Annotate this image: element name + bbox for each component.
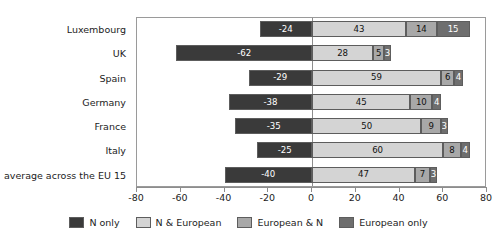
legend-swatch-icon (339, 217, 354, 228)
bar-segment: -40 (225, 167, 313, 183)
x-tick-label: -20 (259, 192, 275, 203)
bar-segment: 3 (384, 45, 391, 61)
bar-segment: 9 (421, 118, 441, 134)
bar-value-label: 3 (431, 170, 436, 179)
bar-row: -24431415 (137, 18, 485, 42)
bar-value-label: 10 (416, 98, 427, 107)
bar-row: -295964 (137, 67, 485, 91)
bar-segment: -29 (249, 70, 312, 86)
category-label: average across the EU 15 (4, 164, 126, 188)
legend-swatch-icon (69, 217, 84, 228)
category-label: Germany (82, 91, 126, 115)
bar-segment: 3 (430, 167, 437, 183)
bar-row: -622853 (137, 42, 485, 66)
bar-segment: 10 (410, 94, 432, 110)
legend-swatch-icon (136, 217, 151, 228)
bar-value-label: -62 (237, 49, 251, 58)
bar-value-label: -35 (267, 122, 281, 131)
bar-value-label: -25 (278, 146, 292, 155)
legend-swatch-icon (237, 217, 252, 228)
x-tick-label: -80 (128, 192, 144, 203)
bar-segment: 60 (312, 142, 443, 158)
bar-value-label: 5 (376, 49, 381, 58)
x-tick-label: 20 (349, 192, 361, 203)
bar-segment: 45 (312, 94, 410, 110)
bar-value-label: 8 (449, 146, 454, 155)
legend-item[interactable]: European & N (237, 217, 323, 228)
bar-value-label: 3 (442, 122, 447, 131)
bar-value-label: 15 (448, 25, 459, 34)
legend-label: European & N (257, 217, 323, 228)
bar-segment: 4 (461, 142, 470, 158)
bar-value-label: -24 (279, 25, 293, 34)
bar-value-label: 4 (434, 98, 439, 107)
bar-value-label: -29 (273, 73, 287, 82)
bar-value-label: 47 (358, 170, 369, 179)
bar-segment: 4 (454, 70, 463, 86)
bar-value-label: 45 (356, 98, 367, 107)
x-tick-label: -40 (216, 192, 232, 203)
legend-item[interactable]: N & European (136, 217, 222, 228)
category-axis-labels: LuxembourgUKSpainGermanyFranceItalyavera… (0, 18, 131, 184)
x-tick-label: 0 (308, 192, 314, 203)
bar-segment: -62 (176, 45, 312, 61)
x-tick-label: 40 (392, 192, 404, 203)
bar-segment: 8 (443, 142, 461, 158)
bar-segment: -38 (229, 94, 312, 110)
legend-item[interactable]: N only (69, 217, 119, 228)
bar-segment: 4 (432, 94, 441, 110)
category-label: UK (113, 42, 126, 66)
x-tick-label: 60 (436, 192, 448, 203)
bar-value-label: 4 (456, 73, 461, 82)
bar-segment: 6 (441, 70, 454, 86)
legend-label: N only (89, 217, 119, 228)
bar-segment: -24 (260, 21, 313, 37)
bar-segment: 3 (441, 118, 448, 134)
bar-segment: 47 (312, 167, 415, 183)
bar-value-label: 59 (371, 73, 382, 82)
bar-value-label: 43 (354, 25, 365, 34)
bar-value-label: 4 (462, 146, 467, 155)
bar-row: -355093 (137, 115, 485, 139)
bar-row: -3845104 (137, 91, 485, 115)
bar-segment: 28 (312, 45, 373, 61)
bar-segment: 43 (312, 21, 406, 37)
plot-area: -24431415-622853-295964-3845104-355093-2… (136, 17, 486, 187)
bar-value-label: 7 (420, 170, 425, 179)
bar-segment: 7 (415, 167, 430, 183)
chart-legend: N onlyN & EuropeanEuropean & NEuropean o… (0, 212, 497, 232)
legend-label: N & European (156, 217, 222, 228)
bar-value-label: 9 (428, 122, 433, 131)
bar-value-label: 6 (445, 73, 450, 82)
bar-value-label: -38 (263, 98, 277, 107)
bar-row: -404773 (137, 164, 485, 188)
stacked-bar-chart: LuxembourgUKSpainGermanyFranceItalyavera… (0, 0, 497, 241)
legend-item[interactable]: European only (339, 217, 427, 228)
bar-segment: 59 (312, 70, 441, 86)
category-label: France (94, 115, 126, 139)
bar-segment: 5 (373, 45, 384, 61)
x-tick-label: 80 (480, 192, 492, 203)
category-label: Luxembourg (67, 18, 126, 42)
bar-segment: 50 (312, 118, 421, 134)
bar-segment: -35 (235, 118, 312, 134)
bar-value-label: 60 (372, 146, 383, 155)
bar-value-label: -40 (261, 170, 275, 179)
category-label: Italy (105, 139, 126, 163)
bar-segment: -25 (257, 142, 312, 158)
bar-value-label: 50 (361, 122, 372, 131)
bar-segment: 15 (437, 21, 470, 37)
bar-value-label: 28 (337, 49, 348, 58)
category-label: Spain (99, 67, 126, 91)
bar-segment: 14 (406, 21, 437, 37)
bar-row: -256084 (137, 139, 485, 163)
bar-value-label: 3 (385, 49, 390, 58)
bar-value-label: 14 (416, 25, 427, 34)
x-tick-label: -60 (172, 192, 188, 203)
legend-label: European only (359, 217, 427, 228)
